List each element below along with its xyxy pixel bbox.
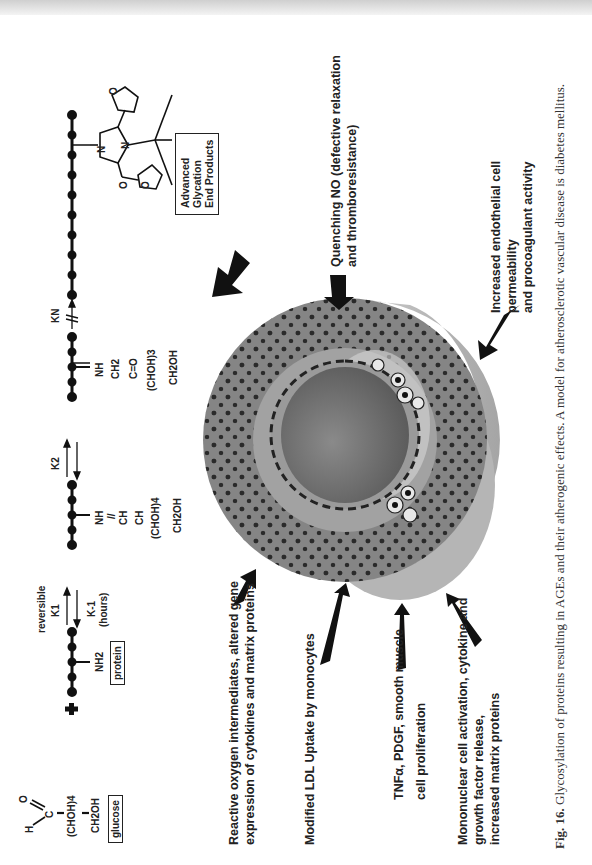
figure-caption: Fig. 16. Glycosylation of proteins resul… [552, 84, 568, 849]
mononuclear-line-1: Mononuclear cell activation, cytokine an… [455, 598, 471, 845]
glucose-terminal: CH2OH [90, 798, 101, 833]
reactive-oxygen-line-2: expression of cytokines and matrix prote… [242, 581, 258, 845]
rate-k2: K2 [50, 457, 61, 470]
age-n1: N [96, 146, 107, 153]
label-reactive-oxygen: Reactive oxygen intermediates, altered g… [226, 581, 258, 845]
plus-icon [65, 703, 78, 715]
quenching-line-2: and thromboresistance) [344, 55, 360, 267]
amadori-1: NH [94, 363, 105, 377]
rate-kn: KN [50, 309, 61, 323]
label-tnf-pdgf: TNFα, PDGF, smooth muscle cell prolifera… [388, 629, 432, 800]
glucose-c: C [44, 811, 55, 818]
caption-label: Fig. 16. [552, 808, 567, 849]
protein-nh2: NH2 [94, 652, 105, 672]
age-box-line-1: Advanced [179, 140, 191, 208]
arrow-ldl [320, 583, 350, 665]
label-mononuclear: Mononuclear cell activation, cytokine an… [455, 598, 503, 845]
rate-k1: K1 [50, 604, 61, 617]
age-o2: O [118, 181, 129, 189]
rate-k-1: K-1 [86, 601, 97, 617]
label-endothelial: Increased endothelial cell permeability … [488, 161, 536, 313]
protein-box: protein [110, 641, 125, 685]
age-box-line-2: Glycation [191, 140, 203, 208]
modified-ldl-line-1: Modified LDL Uptake by monocytes [302, 633, 318, 845]
reversible-label: reversible [36, 586, 47, 633]
label-quenching-no: Quenching NO (defective relaxation and t… [328, 55, 360, 267]
glucose-box: glucose [108, 795, 123, 843]
protein-chain-1 [69, 629, 91, 696]
tnf-line-2: cell proliferation [410, 629, 432, 800]
mononuclear-line-2: growth factor release, [471, 598, 487, 845]
endothelial-line-1: Increased endothelial cell [488, 161, 504, 313]
quenching-line-1: Quenching NO (defective relaxation [328, 55, 344, 267]
protein-chain-2 [69, 482, 91, 549]
schiff-5: (CHOH)4 [150, 497, 161, 539]
schiff-4: CH [134, 511, 145, 525]
glucose-bonds [30, 800, 89, 825]
vessel-cross-section [203, 298, 500, 600]
amadori-3: C=O [128, 358, 139, 379]
schiff-2: // [106, 513, 117, 519]
glucose-h: H [24, 826, 35, 833]
diagram-graphics [0, 0, 592, 865]
tnf-line-1: TNFα, PDGF, smooth muscle [388, 629, 410, 800]
arrow-kn [66, 300, 78, 329]
amadori-2: CH2 [110, 359, 121, 379]
schiff-6: CH2OH [172, 498, 183, 533]
rate-k-1-note: (hours) [98, 593, 109, 627]
age-box-line-3: End Products [203, 140, 215, 208]
reactive-oxygen-line-1: Reactive oxygen intermediates, altered g… [226, 581, 242, 845]
age-o1: O [108, 87, 119, 95]
endothelial-line-3: and procoagulant activity [520, 161, 536, 313]
schiff-3: CH [118, 511, 129, 525]
equilibrium-arrows-k2 [64, 440, 80, 479]
mononuclear-line-3: increased matrix proteins [487, 598, 503, 845]
equilibrium-arrows-k1 [64, 588, 80, 627]
arrow-age-to-vessel [212, 250, 250, 297]
schiff-1: NH [94, 511, 105, 525]
arrow-endothelial [478, 305, 520, 360]
figure-page: H O C (CHOH)4 CH2OH glucose NH2 protein … [0, 0, 592, 865]
age-n2: N [120, 142, 131, 149]
caption-text: Glycosylation of proteins resulting in A… [552, 84, 567, 808]
amadori-5: CH2OH [168, 350, 179, 385]
label-modified-ldl: Modified LDL Uptake by monocytes [302, 633, 318, 845]
age-o3: O [140, 181, 151, 189]
glucose-o: O [18, 795, 29, 803]
endothelial-line-2: permeability [504, 161, 520, 313]
age-structure [90, 87, 172, 189]
protein-chain-3 [69, 334, 91, 401]
amadori-4: (CHOH)3 [146, 349, 157, 391]
age-box: Advanced Glycation End Products [175, 133, 219, 215]
glucose-chain: (CHOH)4 [66, 795, 77, 837]
protein-chain-4 [69, 112, 91, 299]
